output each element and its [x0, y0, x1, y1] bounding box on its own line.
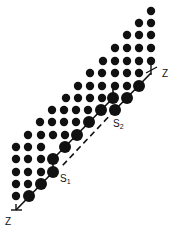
- s1-subscript: 1: [67, 178, 71, 185]
- lattice-dot: [147, 57, 155, 65]
- lattice-dot: [48, 106, 56, 114]
- lattice-dot: [99, 57, 107, 65]
- lattice-dot: [147, 7, 155, 15]
- lattice-dot: [74, 94, 82, 102]
- z-bottom-text: Z: [5, 216, 11, 227]
- lattice-dot: [36, 118, 44, 126]
- lattice-dot: [24, 180, 32, 188]
- lattice-dot: [37, 168, 45, 176]
- lattice-dot: [12, 168, 20, 176]
- lattice-dot: [61, 131, 69, 139]
- lattice-dot: [12, 192, 20, 200]
- lattice-dot: [111, 82, 119, 90]
- s2-subscript: 2: [120, 123, 124, 130]
- lattice-dot: [147, 44, 155, 52]
- lattice-dot: [12, 180, 20, 188]
- lattice-dot: [24, 131, 32, 139]
- lattice-dot: [48, 118, 56, 126]
- lattice-dot: [147, 31, 155, 39]
- step-atom: [133, 80, 145, 92]
- lattice-dot: [49, 131, 57, 139]
- step-atom: [59, 141, 71, 153]
- lattice-dot: [123, 57, 131, 65]
- lattice-dot: [86, 94, 94, 102]
- lattice-dots: [12, 7, 155, 200]
- lattice-dot: [111, 44, 119, 52]
- lattice-dot: [111, 69, 119, 77]
- lattice-dot: [74, 82, 82, 90]
- lattice-dot: [60, 118, 68, 126]
- upper-solid-line: [115, 73, 151, 110]
- step-atom: [47, 153, 59, 165]
- step-atom: [109, 104, 121, 116]
- step-atom: [35, 178, 47, 190]
- step-atom: [23, 190, 35, 202]
- lattice-dot: [135, 57, 143, 65]
- lattice-dot: [37, 143, 45, 151]
- lattice-dot: [12, 155, 20, 163]
- s1-letter: S: [60, 173, 67, 184]
- lattice-diagram: [0, 0, 179, 232]
- s2-letter: S: [113, 118, 120, 129]
- lattice-dot: [98, 82, 106, 90]
- lattice-dot: [147, 19, 155, 27]
- lattice-dot: [98, 94, 106, 102]
- lattice-dot: [135, 19, 143, 27]
- z-axis-label-bottom: Z: [5, 217, 11, 227]
- lattice-dot: [37, 131, 45, 139]
- lattice-dot: [98, 69, 106, 77]
- step-atom: [107, 92, 119, 104]
- step-atom: [83, 116, 95, 128]
- lattice-dot: [86, 82, 94, 90]
- lattice-dot: [123, 31, 131, 39]
- lattice-dot: [37, 155, 45, 163]
- step-atom: [95, 104, 107, 116]
- lattice-dot: [72, 118, 80, 126]
- lattice-dot: [24, 143, 32, 151]
- s1-label: S1: [60, 174, 71, 187]
- lattice-dot: [84, 106, 92, 114]
- step-atom: [121, 92, 133, 104]
- lattice-dot: [60, 106, 68, 114]
- lattice-dot: [72, 106, 80, 114]
- lattice-dot: [24, 155, 32, 163]
- lattice-dot: [111, 57, 119, 65]
- lattice-dot: [135, 31, 143, 39]
- lower-solid-c-line: [16, 172, 53, 210]
- s2-label: S2: [113, 119, 124, 132]
- step-atom: [47, 166, 59, 178]
- z-axis-label-top: Z: [162, 69, 168, 79]
- lattice-dot: [135, 69, 143, 77]
- lattice-dot: [123, 69, 131, 77]
- step-atom: [71, 129, 83, 141]
- lattice-dot: [135, 44, 143, 52]
- lattice-dot: [12, 143, 20, 151]
- lattice-dot: [86, 69, 94, 77]
- step-edge-atoms: [23, 80, 145, 202]
- lattice-dot: [62, 94, 70, 102]
- lattice-dot: [24, 168, 32, 176]
- lattice-dot: [123, 44, 131, 52]
- lattice-dot: [123, 82, 131, 90]
- z-top-text: Z: [162, 68, 168, 79]
